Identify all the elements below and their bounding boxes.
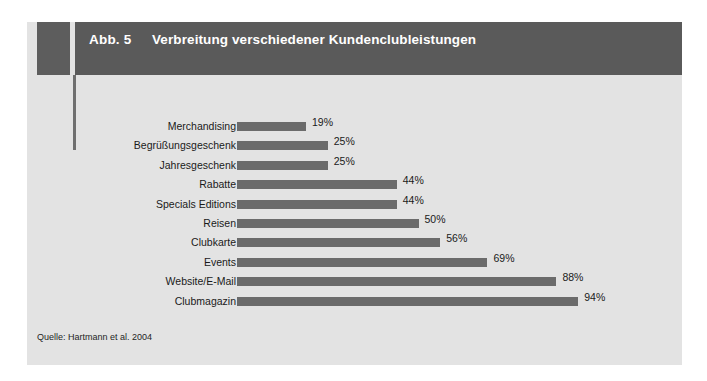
bar-fill xyxy=(237,122,306,131)
bar-category-label: Clubkarte xyxy=(27,236,236,248)
bar-fill xyxy=(237,161,328,170)
bar-category-label: Begrüßungsgeschenk xyxy=(27,139,236,151)
bar-track xyxy=(237,161,328,170)
bar-track xyxy=(237,277,556,286)
bar-category-label: Merchandising xyxy=(27,120,236,132)
bar-row: Reisen50% xyxy=(27,215,682,234)
figure-number-label: Abb. 5 xyxy=(89,32,131,47)
bar-row: Clubkarte56% xyxy=(27,234,682,253)
bar-chart-plot: Merchandising19%Begrüßungsgeschenk25%Jah… xyxy=(27,118,682,318)
bar-value-label: 56% xyxy=(446,232,467,244)
bar-fill xyxy=(237,219,419,228)
figure-panel: Abb. 5 Verbreitung verschiedener Kundenc… xyxy=(27,22,682,365)
bar-track xyxy=(237,141,328,150)
bar-track xyxy=(237,180,397,189)
bar-track xyxy=(237,297,578,306)
bar-fill xyxy=(237,297,578,306)
bar-fill xyxy=(237,180,397,189)
bar-value-label: 69% xyxy=(493,252,514,264)
bar-value-label: 88% xyxy=(562,271,583,283)
bar-value-label: 19% xyxy=(312,116,333,128)
bar-category-label: Reisen xyxy=(27,217,236,229)
bar-track xyxy=(237,258,487,267)
bar-category-label: Events xyxy=(27,256,236,268)
bar-category-label: Clubmagazin xyxy=(27,295,236,307)
bar-value-label: 25% xyxy=(334,135,355,147)
bar-category-label: Rabatte xyxy=(27,178,236,190)
figure-title-bar: Abb. 5 Verbreitung verschiedener Kundenc… xyxy=(75,22,682,75)
source-note: Quelle: Hartmann et al. 2004 xyxy=(37,332,152,342)
bar-fill xyxy=(237,238,440,247)
bar-row: Jahresgeschenk25% xyxy=(27,157,682,176)
bar-category-label: Jahresgeschenk xyxy=(27,159,236,171)
bar-row: Clubmagazin94% xyxy=(27,293,682,312)
bar-fill xyxy=(237,141,328,150)
bar-category-label: Specials Editions xyxy=(27,198,236,210)
bar-row: Rabatte44% xyxy=(27,176,682,195)
bar-category-label: Website/E-Mail xyxy=(27,275,236,287)
bar-fill xyxy=(237,200,397,209)
figure-title: Verbreitung verschiedener Kundenclubleis… xyxy=(152,32,476,47)
bar-track xyxy=(237,238,440,247)
bar-track xyxy=(237,122,306,131)
bar-row: Specials Editions44% xyxy=(27,196,682,215)
bar-value-label: 44% xyxy=(403,194,424,206)
bar-fill xyxy=(237,258,487,267)
bar-track xyxy=(237,200,397,209)
bar-value-label: 44% xyxy=(403,174,424,186)
decorative-corner-block xyxy=(37,22,70,75)
bar-value-label: 25% xyxy=(334,155,355,167)
bar-fill xyxy=(237,277,556,286)
bar-row: Events69% xyxy=(27,254,682,273)
bar-value-label: 50% xyxy=(425,213,446,225)
bar-value-label: 94% xyxy=(584,291,605,303)
bar-track xyxy=(237,219,419,228)
